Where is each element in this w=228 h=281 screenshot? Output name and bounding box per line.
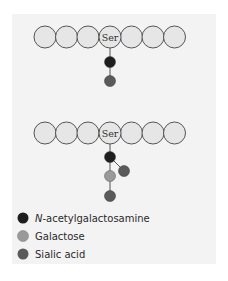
galnac-sugar [105,152,116,163]
sialic-acid-sugar [105,191,116,202]
amino-acid-residue [77,122,99,144]
sialic-acid-sugar [105,76,116,87]
diagram-canvas: Ser Ser [0,0,228,281]
galactose-sugar [105,171,116,182]
legend-label: Sialic acid [35,249,85,260]
amino-acid-residue [164,26,186,48]
serine-label: Ser [102,128,119,139]
sialic-acid-swatch-icon [18,249,29,260]
legend-label: Galactose [35,231,85,242]
amino-acid-residue [77,26,99,48]
amino-acid-residue [164,122,186,144]
serine-label: Ser [102,32,119,43]
sialic-acid-branch-sugar [119,166,130,177]
galactose-swatch-icon [18,231,29,242]
amino-acid-residue [142,26,164,48]
galnac-swatch-icon [18,213,29,224]
legend-item-galnac: N-acetylgalactosamine [18,213,150,225]
amino-acid-residue [142,122,164,144]
svg-text:N-acetylgalactosamine: N-acetylgalactosamine [35,213,150,224]
legend-label: -acetylgalactosamine [42,213,149,224]
amino-acid-residue [34,122,56,144]
amino-acid-residue [56,122,78,144]
amino-acid-residue [121,122,143,144]
amino-acid-residue [121,26,143,48]
amino-acid-residue [34,26,56,48]
galnac-sugar [105,57,116,68]
glycosylation-diagram: Ser Ser [0,0,228,281]
amino-acid-residue [56,26,78,48]
